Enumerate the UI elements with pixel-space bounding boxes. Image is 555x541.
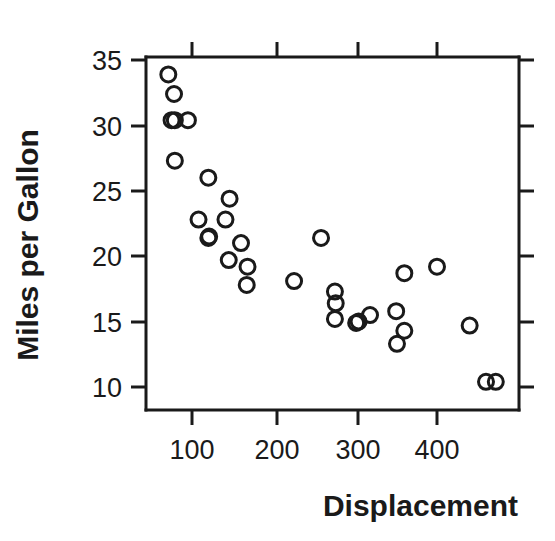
- data-point: [167, 153, 182, 168]
- x-axis-ticks-top: [192, 42, 437, 57]
- x-tick-labels: 100 200 300 400: [169, 435, 459, 465]
- x-tick-label-400: 400: [414, 435, 459, 465]
- x-axis-title: Displacement: [323, 489, 518, 522]
- data-point: [221, 253, 236, 268]
- data-point: [327, 311, 342, 326]
- y-tick-label-20: 20: [92, 242, 122, 272]
- data-point: [397, 323, 412, 338]
- y-tick-labels: 35 30 25 20 15 10: [92, 46, 122, 403]
- x-axis-ticks: [192, 410, 437, 425]
- data-point: [218, 212, 233, 227]
- data-point: [397, 266, 412, 281]
- data-point: [430, 259, 445, 274]
- y-tick-label-10: 10: [92, 373, 122, 403]
- y-tick-label-30: 30: [92, 112, 122, 142]
- data-point: [239, 277, 254, 292]
- y-axis-ticks-right: [519, 60, 534, 387]
- y-tick-label-25: 25: [92, 177, 122, 207]
- scatter-plot-figure: 35 30 25 20 15 10 100 200 300 400: [0, 0, 555, 541]
- data-point: [191, 212, 206, 227]
- data-points-layer: [161, 67, 503, 389]
- data-point: [314, 230, 329, 245]
- data-point: [389, 304, 404, 319]
- data-point: [201, 170, 216, 185]
- x-tick-label-100: 100: [169, 435, 214, 465]
- data-point: [488, 374, 503, 389]
- data-point: [287, 274, 302, 289]
- data-point: [161, 67, 176, 82]
- x-tick-label-300: 300: [335, 435, 380, 465]
- data-point: [234, 236, 249, 251]
- plot-canvas: 35 30 25 20 15 10 100 200 300 400: [0, 0, 555, 541]
- y-tick-label-35: 35: [92, 46, 122, 76]
- x-tick-label-200: 200: [254, 435, 299, 465]
- y-axis-ticks: [131, 60, 146, 387]
- data-point: [222, 191, 237, 206]
- data-point: [462, 318, 477, 333]
- y-tick-label-15: 15: [92, 308, 122, 338]
- data-point: [240, 259, 255, 274]
- data-point: [167, 87, 182, 102]
- y-axis-title: Miles per Gallon: [11, 129, 44, 361]
